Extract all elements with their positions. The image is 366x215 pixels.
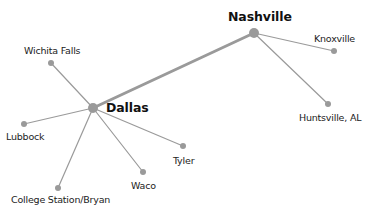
label-nashville: Nashville <box>228 11 292 24</box>
node-knoxville <box>331 48 337 54</box>
edge-dallas-wichita-falls <box>51 63 93 108</box>
node-lubbock <box>21 121 27 127</box>
node-college-station <box>55 185 61 191</box>
edge-dallas-waco <box>93 108 143 172</box>
label-lubbock: Lubbock <box>6 132 44 142</box>
edge-dallas-nashville <box>93 33 254 108</box>
network-diagram <box>0 0 366 215</box>
node-wichita-falls <box>48 60 54 66</box>
edge-dallas-college-station <box>58 108 93 188</box>
label-knoxville: Knoxville <box>314 34 355 44</box>
edge-dallas-lubbock <box>24 108 93 124</box>
label-wichita-falls: Wichita Falls <box>24 46 80 56</box>
node-huntsville <box>325 101 331 107</box>
node-dallas <box>88 103 98 113</box>
node-waco <box>140 169 146 175</box>
node-nashville <box>249 28 259 38</box>
node-tyler <box>180 143 186 149</box>
label-college-station: College Station/Bryan <box>11 195 110 205</box>
label-dallas: Dallas <box>106 102 149 115</box>
label-huntsville: Huntsville, AL <box>299 113 361 123</box>
label-waco: Waco <box>131 181 156 191</box>
label-tyler: Tyler <box>173 156 194 166</box>
